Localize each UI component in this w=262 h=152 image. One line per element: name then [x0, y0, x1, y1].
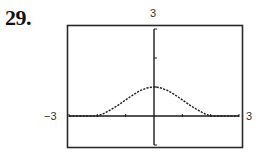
graph-window — [0, 0, 262, 152]
